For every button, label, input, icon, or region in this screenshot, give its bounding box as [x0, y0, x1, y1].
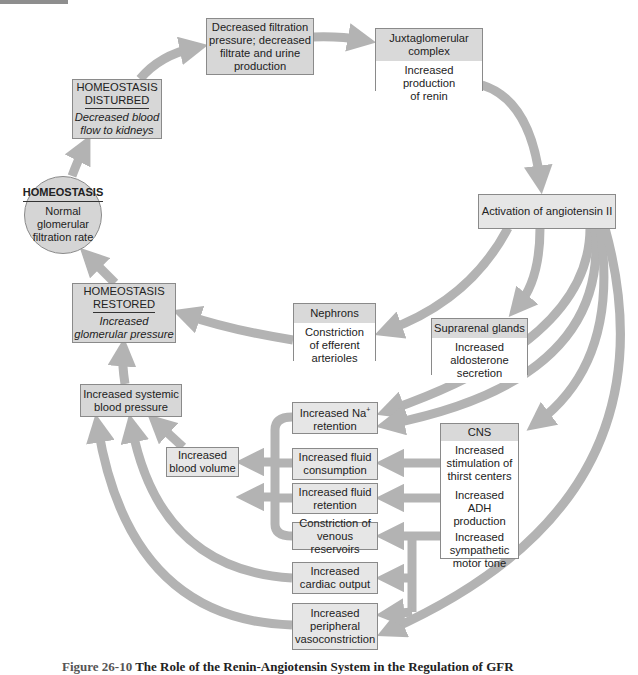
na-text: Increased Na — [300, 407, 367, 419]
filtration-line1: Decreased filtration — [207, 21, 313, 34]
cns-item-thirst: Increased stimulation of thirst centers — [441, 441, 518, 486]
restored-desc-line1: Increased — [99, 315, 148, 327]
juxta-body-line2: of renin — [378, 90, 480, 103]
disturbed-title: HOMEOSTASIS DISTURBED — [73, 81, 161, 111]
filtration-line2: pressure; decreased — [207, 34, 313, 47]
peripheral-vasoconstriction-box: Increased peripheral vasoconstriction — [292, 603, 378, 650]
blood-volume-line1: Increased — [167, 449, 238, 462]
suprarenal-body-line3: secretion — [434, 367, 525, 380]
cns-item-sympathetic: Increased sympathetic motor tone — [441, 531, 518, 573]
cns-item2-line1: Increased ADH — [455, 489, 504, 514]
venous-line2: venous reservoirs — [293, 530, 377, 556]
fluid-retention-line2: retention — [293, 499, 377, 512]
restored-desc-line2: glomerular pressure — [74, 328, 174, 340]
cns-item3-line2: sympathetic — [450, 544, 510, 556]
restored-title-line1: HOMEOSTASIS — [83, 285, 164, 297]
restored-desc: Increased glomerular pressure — [73, 315, 175, 341]
cns-item2-line2: production — [453, 515, 505, 527]
cns-item-adh: Increased ADH production — [441, 486, 518, 531]
peripheral-line1: Increased — [293, 607, 377, 620]
disturbed-title-line2: DISTURBED — [85, 94, 150, 109]
decreased-filtration-box: Decreased filtration pressure; decreased… — [206, 18, 314, 75]
na-retention-line1: Increased Na+ — [293, 403, 377, 420]
angiotensin-box: Activation of angiotensin II — [478, 194, 616, 229]
fluid-consumption-box: Increased fluid consumption — [292, 448, 378, 480]
cns-item1-line1: Increased — [455, 444, 504, 456]
venous-line1: Constriction of — [293, 517, 377, 530]
na-superscript: + — [366, 406, 370, 413]
cns-item1-line3: thirst centers — [447, 470, 511, 482]
disturbed-title-line1: HOMEOSTASIS — [76, 81, 157, 93]
disturbed-desc-line1: Decreased blood — [75, 111, 160, 123]
systemic-bp-box: Increased systemic blood pressure — [80, 384, 182, 417]
cns-header: CNS — [441, 424, 518, 441]
homeostasis-restored-box: HOMEOSTASIS RESTORED Increased glomerula… — [72, 283, 176, 343]
nephrons-body-line3: arterioles — [296, 352, 373, 365]
juxtaglomerular-header: Juxtaglomerular complex — [376, 29, 482, 61]
juxta-header-line1: Juxtaglomerular — [389, 32, 469, 44]
restored-title: HOMEOSTASIS RESTORED — [73, 285, 175, 315]
suprarenal-box: Suprarenal glands Increased aldosterone … — [431, 318, 528, 375]
nephrons-box: Nephrons Constriction of efferent arteri… — [293, 303, 376, 361]
homeostasis-line3: filtration rate — [33, 231, 94, 244]
blood-volume-line2: blood volume — [167, 462, 238, 475]
homeostasis-line2: glomerular — [37, 218, 89, 231]
peripheral-line2: peripheral — [293, 620, 377, 633]
nephrons-body: Constriction of efferent arterioles — [294, 323, 375, 368]
juxtaglomerular-body: Increased production of renin — [376, 61, 482, 106]
cardiac-output-box: Increased cardiac output — [292, 562, 378, 594]
fluid-consumption-line1: Increased fluid — [293, 451, 377, 464]
filtration-line3: filtrate and urine — [207, 47, 313, 60]
suprarenal-header: Suprarenal glands — [432, 319, 527, 338]
restored-title-line2: RESTORED — [93, 298, 155, 313]
systemic-bp-line2: blood pressure — [81, 401, 181, 414]
suprarenal-body: Increased aldosterone secretion — [432, 338, 527, 383]
cardiac-line2: cardiac output — [293, 578, 377, 591]
homeostasis-disturbed-box: HOMEOSTASIS DISTURBED Decreased blood fl… — [72, 79, 162, 139]
fluid-consumption-line2: consumption — [293, 464, 377, 477]
peripheral-line3: vasoconstriction — [293, 633, 377, 646]
cns-item3-line3: motor tone — [453, 557, 506, 569]
cns-item3-line1: Increased — [455, 531, 504, 543]
suprarenal-body-line1: Increased — [434, 341, 525, 354]
na-retention-box: Increased Na+ retention — [292, 402, 378, 434]
cardiac-line1: Increased — [293, 565, 377, 578]
cns-box: CNS Increased stimulation of thirst cent… — [440, 423, 519, 559]
homeostasis-title: HOMEOSTASIS — [23, 186, 103, 202]
nephrons-body-line1: Constriction — [296, 326, 373, 339]
filtration-line4: production — [207, 60, 313, 73]
nephrons-body-line2: of efferent — [296, 339, 373, 352]
juxtaglomerular-box: Juxtaglomerular complex Increased produc… — [375, 28, 483, 91]
angiotensin-label: Activation of angiotensin II — [479, 205, 615, 218]
blood-volume-box: Increased blood volume — [166, 447, 239, 477]
cns-item1-line2: stimulation of — [447, 457, 513, 469]
juxta-header-line2: complex — [408, 45, 450, 57]
disturbed-desc: Decreased blood flow to kidneys — [73, 111, 161, 137]
homeostasis-circle: HOMEOSTASIS Normal glomerular filtration… — [24, 176, 102, 254]
nephrons-header: Nephrons — [294, 304, 375, 323]
systemic-bp-line1: Increased systemic — [81, 388, 181, 401]
juxta-body-line1: Increased production — [378, 64, 480, 90]
fluid-retention-line1: Increased fluid — [293, 486, 377, 499]
disturbed-desc-line2: flow to kidneys — [80, 124, 153, 136]
na-retention-line2: retention — [293, 420, 377, 433]
venous-reservoirs-box: Constriction of venous reservoirs — [292, 522, 378, 550]
homeostasis-line1: Normal — [45, 205, 80, 218]
suprarenal-body-line2: aldosterone — [434, 354, 525, 367]
fluid-retention-box: Increased fluid retention — [292, 483, 378, 514]
